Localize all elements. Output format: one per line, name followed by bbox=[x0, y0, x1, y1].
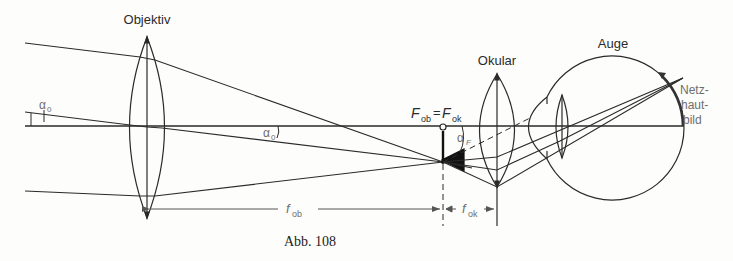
label-f-ok: f ok bbox=[462, 201, 478, 219]
label-f-ob: f ob bbox=[286, 201, 302, 219]
telescope-ray-diagram: Objektiv Okular Auge Netz- haut- bild F … bbox=[0, 0, 733, 261]
svg-text:ob: ob bbox=[421, 114, 431, 124]
label-ocular: Okular bbox=[478, 53, 517, 68]
svg-text:f: f bbox=[462, 201, 467, 216]
figure-caption: Abb. 108 bbox=[284, 234, 336, 249]
alpha0-mid-arc bbox=[277, 126, 279, 138]
svg-text:0: 0 bbox=[47, 105, 52, 114]
svg-text:F: F bbox=[466, 138, 472, 147]
label-focal-equality: F ob = F ok bbox=[411, 105, 462, 124]
label-alpha0-left: α 0 bbox=[39, 98, 52, 114]
label-retina-1: Netz- bbox=[680, 83, 709, 97]
svg-text:ok: ok bbox=[452, 114, 462, 124]
svg-text:f: f bbox=[286, 201, 291, 216]
svg-text:ob: ob bbox=[292, 209, 302, 219]
eye bbox=[529, 56, 684, 200]
svg-text:α: α bbox=[39, 98, 46, 112]
label-alpha0-mid: α 0 bbox=[263, 126, 276, 142]
label-eye: Auge bbox=[598, 36, 628, 51]
svg-text:0: 0 bbox=[271, 133, 276, 142]
label-retina-2: haut- bbox=[681, 98, 708, 112]
svg-text:α: α bbox=[263, 126, 270, 140]
svg-text:=: = bbox=[433, 105, 441, 120]
svg-text:F: F bbox=[411, 105, 421, 121]
label-retina-3: bild bbox=[683, 113, 702, 127]
svg-text:F: F bbox=[442, 105, 452, 121]
alpha0-left-marker bbox=[31, 110, 44, 126]
incoming-rays bbox=[25, 43, 443, 196]
svg-text:ok: ok bbox=[468, 209, 478, 219]
svg-text:α: α bbox=[457, 131, 464, 145]
label-alphaF: α F bbox=[457, 131, 472, 147]
ocular-lens bbox=[480, 74, 515, 226]
focal-point-marker bbox=[440, 124, 446, 130]
label-objective: Objektiv bbox=[124, 12, 171, 27]
